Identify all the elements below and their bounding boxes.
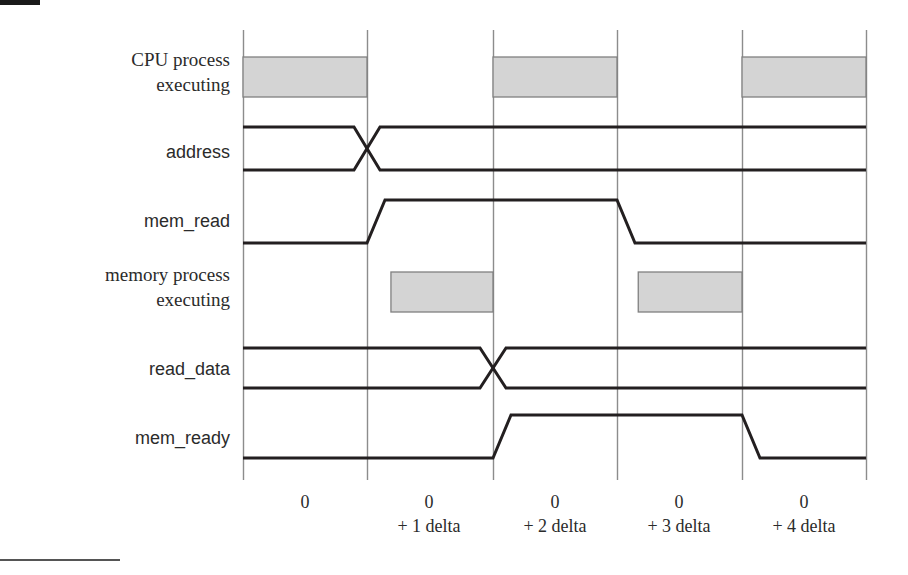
bus-rail-upper-address <box>243 127 866 170</box>
time-tick-label-2: 0 + 2 delta <box>485 490 625 539</box>
signal-label-memory-process-executing: memory process executing <box>0 263 230 312</box>
signal-label-mem-ready: mem_ready <box>0 427 230 450</box>
activity-box-memory-process-executing-1 <box>638 272 742 312</box>
activity-box-memory-process-executing-0 <box>391 272 493 312</box>
signal-label-mem-read: mem_read <box>0 210 230 233</box>
time-tick-label-3: 0 + 3 delta <box>609 490 749 539</box>
activity-box-group <box>243 57 866 312</box>
timing-diagram-page: CPU process executingaddressmem_readmemo… <box>0 0 908 575</box>
signal-label-cpu-process-executing: CPU process executing <box>0 48 230 97</box>
time-tick-label-1: 0 + 1 delta <box>359 490 499 539</box>
bus-rail-lower-read-data <box>243 348 866 388</box>
activity-box-cpu-process-executing-2 <box>742 57 866 97</box>
time-tick-label-0: 0 <box>235 490 375 514</box>
signal-label-address: address <box>0 141 230 164</box>
signal-waveform-mem-ready <box>243 415 866 458</box>
time-tick-label-4: 0 + 4 delta <box>734 490 874 539</box>
signal-waveform-group <box>243 127 866 458</box>
bus-rail-upper-read-data <box>243 348 866 388</box>
activity-box-cpu-process-executing-1 <box>493 57 617 97</box>
activity-box-cpu-process-executing-0 <box>243 57 367 97</box>
bus-rail-lower-address <box>243 127 866 170</box>
signal-label-read-data: read_data <box>0 358 230 381</box>
signal-waveform-mem-read <box>243 200 866 243</box>
